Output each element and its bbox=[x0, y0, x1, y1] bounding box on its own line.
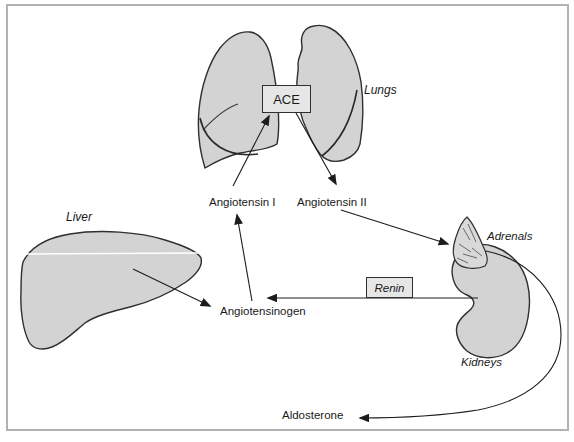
ace-box: ACE bbox=[262, 85, 311, 113]
lungs-label: Lungs bbox=[364, 84, 397, 97]
adrenals-label: Adrenals bbox=[487, 230, 532, 243]
liver-label: Liver bbox=[66, 211, 92, 224]
arrow-angiotensinogen-to-angiotensin1 bbox=[237, 215, 252, 301]
arrow-angiotensin2-to-adrenals bbox=[341, 210, 448, 244]
diagram-stage: ACE Renin Lungs Liver Adrenals Kidneys A… bbox=[0, 0, 574, 442]
liver-shape bbox=[21, 232, 202, 349]
kidneys-label: Kidneys bbox=[461, 356, 502, 369]
ace-box-label: ACE bbox=[273, 92, 300, 107]
angiotensin-2-label: Angiotensin II bbox=[297, 196, 367, 209]
renin-box: Renin bbox=[366, 277, 413, 298]
renin-box-label: Renin bbox=[374, 282, 404, 294]
aldosterone-label: Aldosterone bbox=[282, 409, 343, 422]
angiotensinogen-label: Angiotensinogen bbox=[220, 305, 306, 318]
adrenal-shape bbox=[454, 217, 488, 268]
angiotensin-1-label: Angiotensin I bbox=[209, 196, 276, 209]
